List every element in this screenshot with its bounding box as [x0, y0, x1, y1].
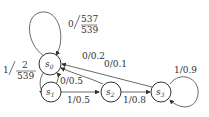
state-diagram: s0 s1 s2 s3 0 537 539 1 2 539 0/0.5 1/0.… [0, 0, 209, 117]
svg-text:2: 2 [22, 60, 28, 70]
label-s3-s0: 0/0.1 [104, 59, 127, 69]
svg-text:537: 537 [81, 14, 98, 24]
state-s3: s3 [151, 82, 171, 102]
label-s2-s0: 0/0.2 [82, 51, 105, 61]
svg-text:0: 0 [68, 19, 74, 29]
self-loop-s3 [170, 77, 198, 107]
state-s0: s0 [39, 53, 61, 75]
state-s1: s1 [41, 82, 61, 102]
label-s0-s1: 1 2 539 [3, 60, 36, 81]
label-s2-s3: 1/0.8 [123, 95, 146, 105]
label-s3-self: 1/0.9 [174, 65, 197, 75]
svg-text:539: 539 [17, 71, 34, 81]
svg-text:1: 1 [3, 65, 9, 75]
edge-s1-s0 [56, 73, 58, 84]
label-s1-s2: 1/0.5 [67, 95, 90, 105]
label-s0-self: 0 537 539 [68, 14, 98, 35]
state-s2: s2 [101, 82, 121, 102]
svg-text:539: 539 [81, 25, 98, 35]
label-s1-s0: 0/0.5 [60, 76, 83, 86]
self-loop-s0 [29, 12, 60, 56]
